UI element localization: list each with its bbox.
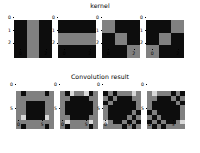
- y-tick-label: 0: [2, 82, 13, 87]
- kernel-section-title: kernel: [0, 2, 200, 11]
- x-tick-mark: [18, 120, 19, 121]
- heatmap-cell: [93, 124, 98, 129]
- kernel-section: kernel: [0, 2, 200, 63]
- heatmap-cell: [136, 124, 141, 129]
- y-tick-label: 1: [0, 28, 11, 33]
- y-tick-label: 2: [44, 40, 55, 45]
- heatmap-cell: [27, 45, 40, 58]
- heatmap-cell: [159, 20, 172, 33]
- heatmap-cell: [159, 45, 172, 58]
- x-tick-mark: [108, 49, 109, 50]
- x-tick-mark: [149, 120, 150, 121]
- y-tick-label: 5: [133, 106, 144, 111]
- heatmap-cell: [71, 20, 84, 33]
- heatmap-cell: [159, 33, 172, 46]
- y-tick-label: 1: [88, 28, 99, 33]
- y-tick-label: 0: [46, 82, 57, 87]
- y-tick-label: 5: [2, 106, 13, 111]
- heatmap-cell: [27, 20, 40, 33]
- y-tick-mark: [15, 108, 16, 109]
- heatmap-cell: [146, 33, 159, 46]
- heatmap-cell: [71, 33, 84, 46]
- y-tick-mark: [146, 84, 147, 85]
- y-tick-label: 2: [132, 40, 143, 45]
- x-tick-mark: [62, 120, 63, 121]
- y-tick-mark: [13, 17, 14, 18]
- x-tick-label: 0: [14, 51, 26, 56]
- x-tick-label: 0: [143, 122, 155, 127]
- heatmap-cell: [49, 124, 54, 129]
- heatmap-cell: [171, 20, 184, 33]
- x-tick-label: 0: [146, 51, 158, 56]
- y-tick-mark: [13, 43, 14, 44]
- x-tick-mark: [152, 49, 153, 50]
- x-tick-mark: [86, 120, 87, 121]
- y-tick-mark: [145, 43, 146, 44]
- heatmap-cell: [58, 33, 71, 46]
- x-tick-label: 2: [128, 51, 140, 56]
- heatmap-cell: [58, 20, 71, 33]
- kernel-panel-row: [0, 11, 200, 63]
- heatmap-cell: [14, 20, 27, 33]
- heatmap-cell: [14, 33, 27, 46]
- convolution-section-title: Convolution result: [0, 73, 200, 82]
- x-tick-label: 0: [58, 51, 70, 56]
- y-tick-mark: [13, 30, 14, 31]
- y-tick-mark: [101, 30, 102, 31]
- y-tick-label: 1: [44, 28, 55, 33]
- x-tick-label: 2: [84, 51, 96, 56]
- x-tick-mark: [134, 49, 135, 50]
- x-tick-label: 0: [12, 122, 24, 127]
- y-tick-mark: [59, 108, 60, 109]
- x-tick-mark: [173, 120, 174, 121]
- y-tick-label: 5: [89, 106, 100, 111]
- y-tick-label: 0: [44, 15, 55, 20]
- y-tick-mark: [15, 84, 16, 85]
- y-tick-label: 2: [0, 40, 11, 45]
- y-tick-label: 0: [88, 15, 99, 20]
- x-tick-label: 5: [167, 122, 179, 127]
- x-tick-label: 0: [99, 122, 111, 127]
- x-tick-mark: [42, 120, 43, 121]
- x-tick-mark: [46, 49, 47, 50]
- y-tick-mark: [145, 30, 146, 31]
- x-tick-mark: [64, 49, 65, 50]
- y-tick-mark: [57, 30, 58, 31]
- heatmap-cell: [115, 20, 128, 33]
- y-tick-label: 0: [89, 82, 100, 87]
- x-tick-mark: [105, 120, 106, 121]
- y-tick-mark: [101, 17, 102, 18]
- x-tick-mark: [178, 49, 179, 50]
- heatmap-cell: [102, 33, 115, 46]
- x-tick-label: 0: [56, 122, 68, 127]
- y-tick-mark: [102, 108, 103, 109]
- heatmap-cell: [180, 124, 185, 129]
- y-tick-label: 2: [88, 40, 99, 45]
- y-tick-mark: [57, 17, 58, 18]
- y-tick-label: 0: [132, 15, 143, 20]
- y-tick-label: 5: [46, 106, 57, 111]
- x-tick-mark: [129, 120, 130, 121]
- y-tick-label: 0: [133, 82, 144, 87]
- x-tick-label: 2: [40, 51, 52, 56]
- y-tick-label: 0: [0, 15, 11, 20]
- heatmap-cell: [115, 33, 128, 46]
- y-tick-mark: [102, 84, 103, 85]
- matplotlib-figure: kernel: [0, 0, 200, 153]
- y-tick-mark: [146, 108, 147, 109]
- heatmap-cell: [71, 45, 84, 58]
- x-tick-label: 5: [123, 122, 135, 127]
- x-tick-label: 5: [36, 122, 48, 127]
- x-tick-mark: [90, 49, 91, 50]
- heatmap-cell: [171, 33, 184, 46]
- heatmap-cell: [146, 20, 159, 33]
- y-tick-mark: [101, 43, 102, 44]
- y-tick-mark: [145, 17, 146, 18]
- x-tick-mark: [20, 49, 21, 50]
- y-tick-mark: [59, 84, 60, 85]
- y-tick-label: 1: [132, 28, 143, 33]
- heatmap-cell: [102, 20, 115, 33]
- x-tick-label: 2: [172, 51, 184, 56]
- heatmap-cell: [27, 33, 40, 46]
- y-tick-mark: [57, 43, 58, 44]
